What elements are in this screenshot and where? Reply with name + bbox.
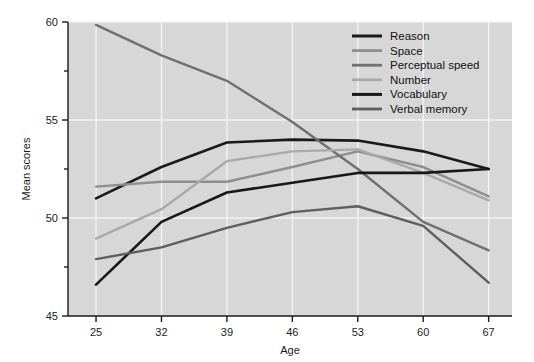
y-axis-tick-label: 50 (46, 212, 58, 224)
legend-label-perceptual-speed: Perceptual speed (390, 59, 480, 71)
legend-label-reason: Reason (390, 30, 430, 42)
y-axis-tick-label: 60 (46, 16, 58, 28)
legend-label-space: Space (390, 45, 423, 57)
legend-label-vocabulary: Vocabulary (390, 88, 447, 100)
x-axis-tick-label: 39 (221, 326, 233, 338)
y-axis-tick-label: 45 (46, 310, 58, 322)
figure-root: 4550556025323946536067AgeMean scoresReas… (0, 0, 534, 362)
x-axis-tick-label: 32 (155, 326, 167, 338)
y-axis-title: Mean scores (20, 137, 32, 200)
y-axis-tick-label: 55 (46, 114, 58, 126)
x-axis-tick-label: 60 (417, 326, 429, 338)
x-axis-title: Age (280, 344, 300, 356)
x-axis-tick-label: 25 (90, 326, 102, 338)
x-axis-tick-label: 46 (286, 326, 298, 338)
legend-label-number: Number (390, 74, 431, 86)
chart-canvas: 4550556025323946536067AgeMean scoresReas… (0, 0, 534, 362)
x-axis-tick-label: 67 (483, 326, 495, 338)
x-axis-tick-label: 53 (352, 326, 364, 338)
legend-label-verbal-memory: Verbal memory (390, 103, 468, 115)
line-chart-figure: 4550556025323946536067AgeMean scoresReas… (0, 0, 534, 362)
